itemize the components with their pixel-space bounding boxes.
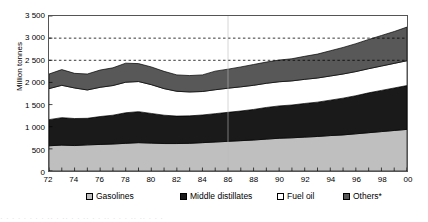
y-tick-label: 1 500 <box>0 100 45 109</box>
x-tick-label: 72 <box>36 175 60 184</box>
legend-item-fuel-oil[interactable]: Fuel oil <box>277 191 314 201</box>
y-tick-label: 3 000 <box>0 33 45 42</box>
legend-label: Middle distillates <box>190 191 252 201</box>
legend-swatch-icon <box>277 193 284 200</box>
x-tick-label: 00 <box>396 175 420 184</box>
x-axis-tick-labels: 727476788082848688909294969800 <box>0 175 428 189</box>
x-tick-label: 82 <box>165 175 189 184</box>
x-tick-label: 80 <box>139 175 163 184</box>
legend-item-others-[interactable]: Others* <box>343 191 382 201</box>
y-tick-label: 2 500 <box>0 55 45 64</box>
legend-swatch-icon <box>180 193 187 200</box>
legend-item-gasolines[interactable]: Gasolines <box>86 191 134 201</box>
y-tick-label: 3 500 <box>0 11 45 20</box>
y-tick-label: 1 000 <box>0 123 45 132</box>
legend-item-middle-distillates[interactable]: Middle distillates <box>180 191 252 201</box>
x-tick-label: 94 <box>319 175 343 184</box>
x-tick-label: 88 <box>242 175 266 184</box>
x-tick-label: 90 <box>267 175 291 184</box>
legend-swatch-icon <box>343 193 350 200</box>
plot-area <box>48 15 408 172</box>
y-tick-label: 500 <box>0 145 45 154</box>
x-tick-label: 78 <box>113 175 137 184</box>
x-tick-label: 96 <box>345 175 369 184</box>
x-tick-label: 98 <box>370 175 394 184</box>
chart-figure: Million tonnes 05001 0001 5002 0002 5003… <box>0 0 428 222</box>
chart-legend: GasolinesMiddle distillatesFuel oilOther… <box>0 191 428 205</box>
x-tick-label: 86 <box>216 175 240 184</box>
x-tick-label: 76 <box>87 175 111 184</box>
legend-label: Gasolines <box>96 191 134 201</box>
y-tick-label: 2 000 <box>0 78 45 87</box>
legend-label: Fuel oil <box>287 191 314 201</box>
x-tick-label: 84 <box>190 175 214 184</box>
legend-label: Others* <box>353 191 382 201</box>
stacked-area-svg <box>49 16 407 171</box>
x-tick-label: 74 <box>62 175 86 184</box>
x-tick-label: 92 <box>293 175 317 184</box>
page-bleed-text: · · · · · · · · ·· · ·· · · ·· · · ·· · … <box>0 214 428 222</box>
legend-swatch-icon <box>86 193 93 200</box>
